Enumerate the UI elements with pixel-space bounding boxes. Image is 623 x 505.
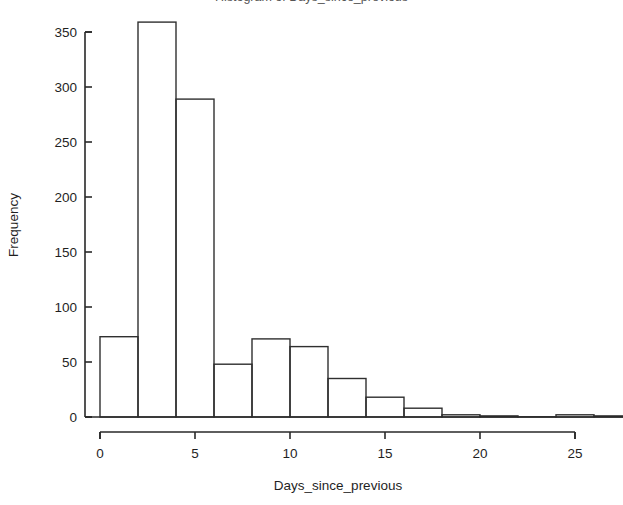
histogram-bar: [214, 364, 252, 417]
x-axis-title: Days_since_previous: [274, 478, 403, 493]
histogram-svg: 0 50 100 150 200 250 300 350 Frequency: [0, 0, 623, 505]
x-tick-label-5: 5: [191, 446, 199, 461]
y-axis-line: [85, 32, 92, 417]
histogram-bar: [176, 99, 214, 417]
histogram-bar: [366, 397, 404, 417]
y-tick-label-200: 200: [54, 190, 77, 205]
histogram-bar: [138, 22, 176, 417]
y-tick-label-100: 100: [54, 300, 77, 315]
x-tick-label-0: 0: [96, 446, 104, 461]
histogram-bar: [404, 408, 442, 417]
x-tick-label-10: 10: [282, 446, 297, 461]
y-tick-marks: [85, 32, 92, 417]
x-tick-marks: [100, 432, 575, 439]
y-tick-label-50: 50: [62, 355, 77, 370]
x-tick-label-25: 25: [567, 446, 582, 461]
histogram-bars: [100, 22, 623, 417]
chart-canvas: Histogram of Days_since_previous 0 50 10: [0, 0, 623, 505]
y-tick-label-300: 300: [54, 80, 77, 95]
histogram-bar: [328, 379, 366, 418]
histogram-plot: 0 50 100 150 200 250 300 350 Frequency: [0, 0, 623, 505]
y-tick-labels: 0 50 100 150 200 250 300 350: [54, 25, 77, 425]
x-tick-label-20: 20: [472, 446, 487, 461]
x-tick-label-15: 15: [377, 446, 392, 461]
y-tick-label-0: 0: [69, 410, 77, 425]
x-tick-labels: 0 5 10 15 20 25: [96, 446, 582, 461]
x-axis-line: [100, 432, 575, 439]
y-tick-label-150: 150: [54, 245, 77, 260]
histogram-bar: [290, 347, 328, 417]
y-tick-label-250: 250: [54, 135, 77, 150]
y-tick-label-350: 350: [54, 25, 77, 40]
histogram-bar: [100, 337, 138, 417]
y-axis-title: Frequency: [6, 193, 21, 257]
histogram-bar: [252, 339, 290, 417]
